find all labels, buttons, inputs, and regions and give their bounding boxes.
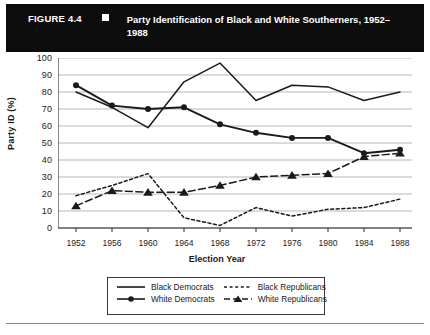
dotted-line-icon bbox=[223, 282, 253, 292]
y-tick-label: 10 bbox=[28, 206, 52, 216]
series-line bbox=[76, 174, 400, 226]
figure-number: FIGURE 4.4 bbox=[28, 13, 82, 24]
y-axis-tick-labels: 0102030405060708090100 bbox=[22, 58, 52, 228]
data-point bbox=[217, 121, 223, 127]
legend-label: White Republicans bbox=[258, 294, 327, 304]
solid-line-circle-icon bbox=[116, 294, 146, 304]
legend-item: Black Democrats bbox=[108, 282, 215, 292]
data-point bbox=[109, 103, 115, 109]
y-tick-label: 100 bbox=[28, 53, 52, 63]
y-tick-label: 60 bbox=[28, 121, 52, 131]
data-point bbox=[289, 135, 295, 141]
y-tick-label: 80 bbox=[28, 87, 52, 97]
y-tick-label: 90 bbox=[28, 70, 52, 80]
data-point bbox=[73, 82, 79, 88]
data-point bbox=[253, 130, 259, 136]
series-line bbox=[76, 63, 400, 128]
chart-plot-area: Party ID (%) 0102030405060708090100 1952… bbox=[22, 58, 412, 258]
data-point bbox=[251, 173, 261, 181]
figure-title: Party Identification of Black and White … bbox=[127, 13, 395, 39]
x-axis-title: Election Year bbox=[22, 254, 412, 264]
data-point bbox=[325, 135, 331, 141]
footer-rule bbox=[6, 323, 424, 324]
y-axis-title: Party ID (%) bbox=[6, 97, 16, 150]
legend-item: White Republicans bbox=[215, 294, 327, 304]
data-point bbox=[71, 202, 81, 210]
figure-header-banner: FIGURE 4.4 Party Identification of Black… bbox=[6, 4, 424, 52]
y-tick-label: 20 bbox=[28, 189, 52, 199]
legend-item: Black Republicans bbox=[215, 282, 327, 292]
data-point bbox=[145, 106, 151, 112]
dashed-line-triangle-icon bbox=[223, 294, 253, 304]
figure-container: FIGURE 4.4 Party Identification of Black… bbox=[0, 0, 430, 335]
data-point bbox=[181, 104, 187, 110]
chart-svg bbox=[58, 58, 412, 240]
series-line bbox=[76, 153, 400, 206]
legend-label: Black Republicans bbox=[258, 282, 326, 292]
legend-item: White Democrats bbox=[108, 294, 215, 304]
y-tick-label: 50 bbox=[28, 138, 52, 148]
legend-label: Black Democrats bbox=[151, 282, 214, 292]
y-tick-label: 30 bbox=[28, 172, 52, 182]
y-tick-label: 70 bbox=[28, 104, 52, 114]
legend-label: White Democrats bbox=[151, 294, 215, 304]
solid-line-icon bbox=[116, 282, 146, 292]
chart-legend: Black DemocratsBlack RepublicansWhite De… bbox=[107, 277, 325, 315]
y-tick-label: 40 bbox=[28, 155, 52, 165]
square-bullet-icon bbox=[102, 14, 109, 21]
y-tick-label: 0 bbox=[28, 223, 52, 233]
